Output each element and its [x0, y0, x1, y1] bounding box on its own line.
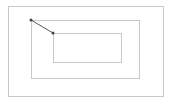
nested-rectangles-diagram — [0, 0, 175, 102]
connector-line — [31, 20, 53, 33]
connector-point-end — [52, 32, 55, 35]
middle-rectangle — [32, 21, 140, 79]
inner-rectangle — [54, 34, 122, 63]
connector-point-start — [30, 19, 33, 22]
